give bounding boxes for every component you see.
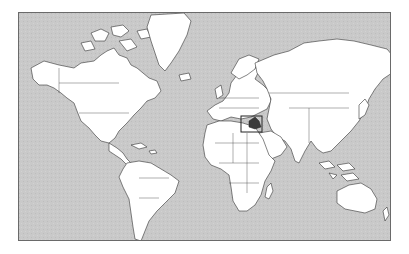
world-map-svg xyxy=(19,13,391,241)
world-map xyxy=(18,12,391,241)
